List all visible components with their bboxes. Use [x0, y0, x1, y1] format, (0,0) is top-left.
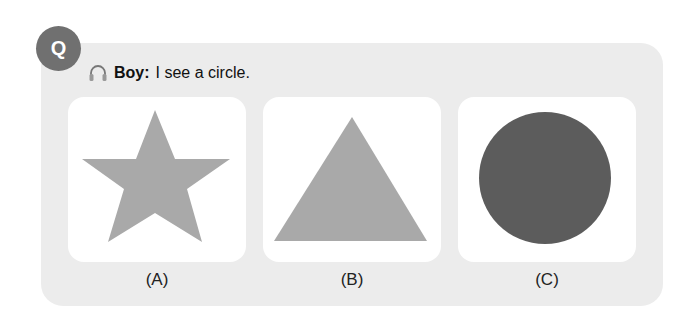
question-text: I see a circle. [156, 64, 250, 82]
option-card-a[interactable] [68, 97, 246, 262]
circle-icon [458, 97, 636, 262]
question-badge: Q [36, 26, 81, 71]
headphones-icon[interactable] [88, 64, 108, 82]
star-icon [68, 97, 246, 262]
triangle-icon [263, 97, 441, 262]
option-label-a: (A) [68, 270, 246, 290]
speaker-label: Boy: [114, 64, 150, 82]
option-label-b: (B) [263, 270, 441, 290]
option-label-c: (C) [458, 270, 636, 290]
question-prompt: Boy: I see a circle. [88, 62, 250, 84]
option-card-b[interactable] [263, 97, 441, 262]
option-card-c[interactable] [458, 97, 636, 262]
